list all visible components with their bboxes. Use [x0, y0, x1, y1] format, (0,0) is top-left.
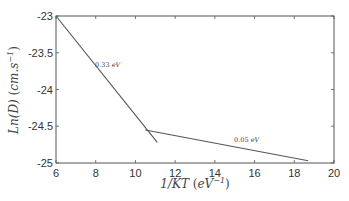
- plot-area-border: [56, 16, 334, 163]
- y-tick-label: -23: [37, 10, 53, 22]
- x-tick-label: 16: [248, 167, 260, 179]
- x-tick-label: 8: [93, 167, 99, 179]
- y-tick-label: -23.5: [28, 47, 53, 59]
- x-tick-label: 18: [288, 167, 300, 179]
- chart: 68101214161820-23-23.5-24-24.5-25 0.33 e…: [0, 0, 349, 201]
- data-series: [56, 16, 308, 161]
- y-tick-label: -24: [37, 84, 53, 96]
- ticks: 68101214161820-23-23.5-24-24.5-25: [28, 10, 340, 179]
- y-tick-label: -25: [37, 157, 53, 169]
- fit-line: [145, 130, 308, 161]
- activation-energy-label: 0.05 eV: [234, 136, 260, 144]
- x-axis-title: 1/KT (eV−1): [160, 176, 229, 191]
- activation-energy-label: 0.33 eV: [95, 61, 121, 69]
- fit-line: [56, 16, 157, 142]
- x-tick-label: 6: [53, 167, 59, 179]
- annotations: 0.33 eV0.05 eV: [95, 61, 260, 144]
- x-tick-label: 10: [129, 167, 141, 179]
- x-tick-label: 20: [328, 167, 340, 179]
- y-axis-title: Ln(D) (cm.s−1): [6, 46, 21, 135]
- y-tick-label: -24.5: [28, 120, 53, 132]
- axes-frame: [56, 16, 334, 163]
